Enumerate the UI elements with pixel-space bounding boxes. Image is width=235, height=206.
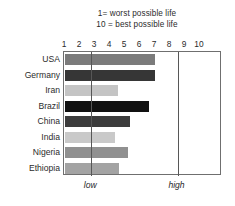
category-label-ethiopia: Ethiopia [2,163,60,174]
reference-line-low [91,52,92,176]
bar-row [64,145,220,161]
x-tick-5: 5 [122,38,127,50]
category-label-china: China [2,116,60,127]
category-label-usa: USA [2,54,60,65]
x-tick-1: 1 [62,38,67,50]
y-axis-category-labels: USAGermanyIranBrazilChinaIndiaNigeriaEth… [0,51,60,175]
bar-row [64,130,220,146]
bar-row [64,83,220,99]
bar-row [64,114,220,130]
bar-germany [65,70,155,81]
category-label-nigeria: Nigeria [2,147,60,158]
annotation-low: low [84,180,97,190]
x-tick-4: 4 [107,38,112,50]
bar-usa [65,54,155,65]
reference-line-high [178,52,179,176]
chart-figure: 1= worst possible life 10 = best possibl… [0,0,235,206]
chart-subtitle: 1= worst possible life 10 = best possibl… [62,9,212,30]
bar-india [65,132,115,143]
bar-row [64,68,220,84]
category-label-india: India [2,132,60,143]
bars-container [64,52,220,174]
annotation-high: high [168,180,184,190]
x-tick-8: 8 [167,38,172,50]
category-label-germany: Germany [2,70,60,81]
plot-area [63,51,221,175]
bar-brazil [65,101,149,112]
bar-nigeria [65,147,128,158]
x-tick-7: 7 [152,38,157,50]
bar-china [65,116,130,127]
bar-row [64,161,220,177]
bar-row [64,52,220,68]
subtitle-line-1: 1= worst possible life [62,9,212,20]
x-tick-9: 9 [182,38,187,50]
x-axis-tick-labels: 12345678910 [0,38,235,50]
x-tick-3: 3 [92,38,97,50]
category-label-iran: Iran [2,85,60,96]
bar-row [64,99,220,115]
subtitle-line-2: 10 = best possible life [62,20,212,31]
x-tick-6: 6 [137,38,142,50]
category-label-brazil: Brazil [2,101,60,112]
x-tick-10: 10 [194,38,203,50]
x-tick-2: 2 [77,38,82,50]
